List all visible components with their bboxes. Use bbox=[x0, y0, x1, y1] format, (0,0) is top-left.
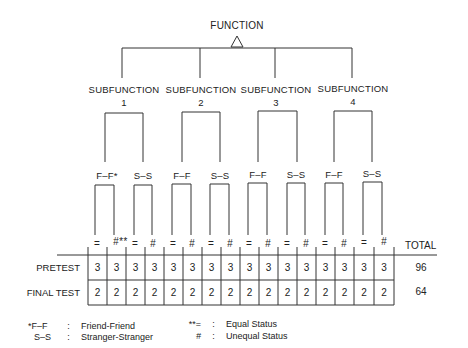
table-cell: 2 bbox=[316, 280, 335, 305]
table-cell: 2 bbox=[374, 280, 394, 305]
table-cell: 2 bbox=[354, 280, 374, 305]
table-cell: 2 bbox=[240, 280, 259, 305]
legend-separator: : bbox=[204, 319, 224, 329]
table-cell: 2 bbox=[183, 280, 202, 305]
unequal-status-mark: #** bbox=[113, 236, 127, 247]
equal-status-mark: = bbox=[208, 238, 214, 249]
subfunction-1-number: 1 bbox=[121, 97, 126, 108]
equal-status-mark: = bbox=[284, 238, 290, 249]
table-cell: 3 bbox=[278, 255, 297, 280]
equal-status-mark: = bbox=[246, 238, 252, 249]
legend-item-friend-friend: *F–F : Friend-Friend bbox=[28, 321, 135, 331]
table-cell: 3 bbox=[107, 255, 126, 280]
unequal-status-mark: # bbox=[227, 238, 233, 249]
group-label: S–S bbox=[287, 169, 306, 180]
function-tree-diagram: FUNCTION SUBFUNCTION 1 SUBFUNCTION 2 SUB… bbox=[0, 0, 468, 348]
group-label: S–S bbox=[211, 170, 230, 181]
legend-desc: Equal Status bbox=[226, 319, 277, 329]
legend-key: # bbox=[177, 331, 201, 341]
table-cell: 2 bbox=[164, 280, 183, 305]
table-cell: 3 bbox=[126, 255, 145, 280]
unequal-status-mark: # bbox=[341, 238, 347, 249]
subfunction-4-label: SUBFUNCTION bbox=[318, 83, 389, 94]
table-cell: 2 bbox=[259, 280, 278, 305]
table-cell: 3 bbox=[316, 255, 335, 280]
group-label: S–S bbox=[363, 168, 382, 179]
legend-item-equal-status: **= : Equal Status bbox=[177, 319, 277, 329]
table-cell: 3 bbox=[88, 255, 107, 280]
legend-desc: Friend-Friend bbox=[81, 321, 135, 331]
table-cell: 3 bbox=[335, 255, 354, 280]
subfunction-1-label: SUBFUNCTION bbox=[89, 84, 160, 95]
legend-separator: : bbox=[204, 331, 224, 341]
table-cell: 2 bbox=[297, 280, 316, 305]
table-cell: 3 bbox=[221, 255, 240, 280]
root-triangle-icon bbox=[231, 36, 243, 47]
legend-desc: Stranger-Stranger bbox=[81, 332, 153, 342]
table-cell: 3 bbox=[240, 255, 259, 280]
subfunction-3-label: SUBFUNCTION bbox=[241, 84, 312, 95]
table-cell: 3 bbox=[297, 255, 316, 280]
row-label-pretest: PRETEST bbox=[0, 262, 80, 273]
legend-key: *F–F bbox=[28, 321, 56, 331]
equal-status-mark: = bbox=[94, 238, 100, 249]
unequal-status-mark: # bbox=[303, 238, 309, 249]
equal-status-mark: = bbox=[361, 237, 367, 248]
total-column-header: TOTAL bbox=[405, 240, 436, 251]
legend-separator: : bbox=[59, 332, 79, 342]
unequal-status-mark: # bbox=[265, 238, 271, 249]
table-cell: 2 bbox=[278, 280, 297, 305]
table-cell: 3 bbox=[164, 255, 183, 280]
table-cell: 3 bbox=[374, 255, 394, 280]
table-cell: 2 bbox=[221, 280, 240, 305]
subfunction-2-number: 2 bbox=[198, 97, 203, 108]
legend-desc: Unequal Status bbox=[226, 331, 288, 341]
unequal-status-mark: # bbox=[150, 238, 156, 249]
group-label: S–S bbox=[134, 170, 153, 181]
table-cell: 3 bbox=[259, 255, 278, 280]
table-cell: 2 bbox=[335, 280, 354, 305]
legend-key: **= bbox=[177, 319, 201, 329]
table-cell: 3 bbox=[202, 255, 221, 280]
table-cell: 2 bbox=[145, 280, 164, 305]
group-label: F–F bbox=[173, 170, 191, 181]
table-cell: 3 bbox=[145, 255, 164, 280]
equal-status-mark: = bbox=[170, 238, 176, 249]
final-test-total: 64 bbox=[406, 286, 436, 297]
table-cell: 2 bbox=[202, 280, 221, 305]
table-cell: 2 bbox=[88, 280, 107, 305]
group-label: F–F bbox=[325, 169, 343, 180]
unequal-status-mark: # bbox=[381, 236, 387, 247]
subfunction-2-label: SUBFUNCTION bbox=[166, 84, 237, 95]
root-function-label: FUNCTION bbox=[210, 20, 263, 31]
subfunction-4-number: 4 bbox=[350, 96, 355, 107]
row-label-final-test: FINAL TEST bbox=[0, 287, 80, 298]
legend-separator: : bbox=[59, 321, 79, 331]
table-cell: 3 bbox=[183, 255, 202, 280]
equal-status-mark: = bbox=[322, 238, 328, 249]
table-cell: 3 bbox=[354, 255, 374, 280]
legend-item-unequal-status: # : Unequal Status bbox=[177, 331, 288, 341]
group-label: F–F* bbox=[96, 170, 117, 181]
equal-status-mark: = bbox=[132, 238, 138, 249]
subfunction-3-number: 3 bbox=[273, 97, 278, 108]
legend-item-stranger-stranger: S–S : Stranger-Stranger bbox=[34, 332, 153, 342]
table-cell: 2 bbox=[126, 280, 145, 305]
table-cell: 2 bbox=[107, 280, 126, 305]
pretest-total: 96 bbox=[406, 262, 436, 273]
legend-key: S–S bbox=[34, 332, 56, 342]
unequal-status-mark: # bbox=[189, 238, 195, 249]
group-label: F–F bbox=[249, 169, 267, 180]
